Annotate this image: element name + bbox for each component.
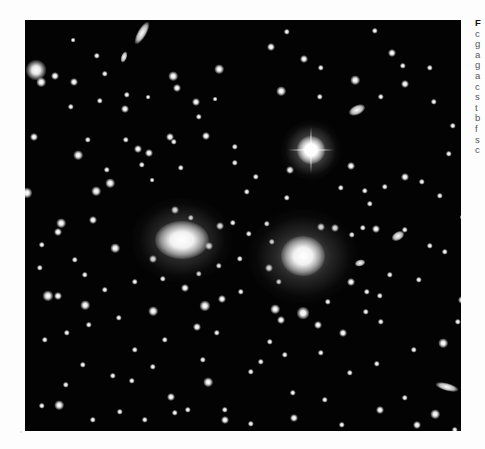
point-source bbox=[36, 77, 46, 87]
point-source bbox=[90, 417, 96, 423]
point-source bbox=[63, 382, 69, 388]
point-source bbox=[42, 337, 48, 343]
figure-caption-column: Fcgagacstbfsc bbox=[475, 18, 485, 156]
point-source bbox=[277, 316, 285, 324]
point-source bbox=[258, 359, 264, 365]
point-source bbox=[317, 94, 323, 100]
point-source bbox=[253, 174, 259, 180]
document-page: Fcgagacstbfsc bbox=[0, 0, 485, 449]
point-source bbox=[416, 277, 422, 283]
caption-line: c bbox=[475, 145, 485, 156]
point-source bbox=[282, 352, 288, 358]
point-source bbox=[438, 338, 448, 348]
point-source bbox=[364, 289, 370, 295]
point-source bbox=[185, 407, 191, 413]
point-source bbox=[248, 369, 254, 375]
point-source bbox=[56, 218, 66, 228]
point-source bbox=[458, 296, 461, 304]
point-source bbox=[290, 390, 296, 396]
point-source bbox=[94, 53, 100, 59]
point-source bbox=[363, 309, 369, 315]
point-source bbox=[430, 409, 440, 419]
point-source bbox=[360, 225, 366, 231]
point-source bbox=[401, 80, 409, 88]
point-source bbox=[232, 144, 238, 150]
point-source bbox=[82, 272, 88, 278]
point-source bbox=[339, 422, 345, 428]
point-source bbox=[362, 188, 368, 194]
point-source bbox=[267, 43, 275, 51]
point-source bbox=[39, 242, 45, 248]
point-source bbox=[202, 132, 210, 140]
point-source bbox=[411, 347, 417, 353]
point-source bbox=[102, 71, 108, 77]
point-source bbox=[54, 292, 62, 300]
galaxy-cluster-photograph bbox=[25, 20, 461, 431]
point-source bbox=[97, 98, 103, 104]
point-source bbox=[181, 284, 189, 292]
point-source bbox=[290, 414, 298, 422]
point-source bbox=[218, 295, 226, 303]
point-source bbox=[123, 137, 129, 143]
point-source bbox=[132, 347, 138, 353]
point-source bbox=[30, 133, 38, 141]
point-source bbox=[238, 289, 244, 295]
point-source bbox=[196, 114, 202, 120]
caption-line: a bbox=[475, 71, 485, 82]
point-source bbox=[452, 427, 458, 431]
point-source bbox=[400, 63, 406, 69]
point-source bbox=[80, 362, 86, 368]
point-source bbox=[110, 373, 116, 379]
point-source bbox=[193, 323, 201, 331]
point-source bbox=[237, 256, 243, 262]
point-source bbox=[171, 139, 177, 145]
point-source bbox=[214, 330, 220, 336]
point-source bbox=[402, 395, 408, 401]
point-source bbox=[248, 421, 254, 427]
point-source bbox=[377, 293, 383, 299]
point-source bbox=[54, 400, 64, 410]
point-source bbox=[150, 178, 155, 183]
point-source bbox=[214, 64, 224, 74]
elongated-galaxy bbox=[347, 102, 368, 119]
point-source bbox=[213, 97, 218, 102]
point-source bbox=[71, 38, 76, 43]
caption-line: F bbox=[475, 18, 485, 29]
point-source bbox=[192, 98, 200, 106]
point-source bbox=[178, 165, 184, 171]
point-source bbox=[162, 337, 168, 343]
point-source bbox=[372, 225, 380, 233]
point-source bbox=[419, 179, 425, 185]
point-source bbox=[267, 339, 273, 345]
point-source bbox=[134, 145, 142, 153]
point-source bbox=[427, 243, 433, 249]
point-source bbox=[378, 94, 384, 100]
point-source bbox=[276, 86, 286, 96]
point-source bbox=[25, 187, 33, 198]
point-source bbox=[51, 72, 59, 80]
point-source bbox=[347, 162, 355, 170]
point-source bbox=[89, 216, 97, 224]
point-source bbox=[68, 104, 74, 110]
point-source bbox=[105, 178, 115, 188]
point-source bbox=[437, 193, 443, 199]
point-source bbox=[199, 300, 210, 311]
point-source bbox=[318, 65, 324, 71]
point-source bbox=[322, 397, 328, 403]
point-source bbox=[350, 75, 360, 85]
point-source bbox=[168, 71, 178, 81]
point-source bbox=[121, 105, 129, 113]
point-source bbox=[173, 84, 181, 92]
point-source bbox=[85, 137, 91, 143]
point-source bbox=[374, 361, 380, 367]
point-source bbox=[246, 231, 252, 237]
point-source bbox=[110, 243, 120, 253]
point-source bbox=[167, 393, 175, 401]
point-source bbox=[150, 364, 156, 370]
point-source bbox=[431, 99, 437, 105]
point-source bbox=[284, 29, 290, 35]
point-source bbox=[117, 409, 123, 415]
point-source bbox=[104, 167, 110, 173]
point-source bbox=[172, 410, 178, 416]
point-source bbox=[73, 150, 83, 160]
